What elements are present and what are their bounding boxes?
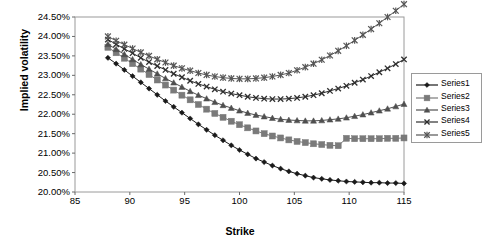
data-marker xyxy=(237,122,243,128)
data-marker xyxy=(212,87,217,92)
square-marker xyxy=(352,136,358,142)
data-marker xyxy=(393,180,398,185)
data-marker xyxy=(253,156,258,161)
triangle-marker xyxy=(154,71,160,76)
diamond-marker xyxy=(344,179,349,184)
diamond-marker xyxy=(401,181,406,186)
data-marker xyxy=(401,181,406,186)
triangle-marker xyxy=(171,80,177,85)
diamond-marker xyxy=(385,180,390,185)
diamond-marker xyxy=(336,178,341,183)
square-marker xyxy=(376,136,382,142)
square-marker xyxy=(195,102,201,108)
data-marker xyxy=(253,128,259,134)
data-marker xyxy=(360,32,366,39)
data-marker xyxy=(162,82,168,88)
data-marker xyxy=(336,86,341,91)
square-marker xyxy=(162,82,168,88)
data-marker xyxy=(294,67,300,74)
data-marker xyxy=(369,180,374,185)
data-marker xyxy=(319,56,325,63)
series-line xyxy=(108,4,404,79)
data-marker xyxy=(376,20,382,27)
legend-key-icon xyxy=(415,77,439,89)
diamond-marker xyxy=(393,180,398,185)
series-2 xyxy=(105,44,407,148)
legend-item-series2[interactable]: Series2 xyxy=(415,89,478,101)
diamond-marker xyxy=(245,152,250,157)
data-marker xyxy=(286,137,292,143)
diamond-marker xyxy=(294,171,299,176)
triangle-marker xyxy=(162,75,168,80)
data-marker xyxy=(154,71,160,76)
data-marker xyxy=(262,159,267,164)
data-marker xyxy=(171,62,177,69)
data-marker xyxy=(343,135,349,141)
legend-marker-asterisk-icon xyxy=(415,129,439,141)
data-marker xyxy=(302,64,308,71)
data-marker xyxy=(220,114,226,120)
diamond-marker xyxy=(204,127,209,132)
legend-item-series1[interactable]: Series1 xyxy=(415,77,478,89)
data-marker xyxy=(245,125,251,131)
data-marker xyxy=(130,56,136,61)
data-marker xyxy=(187,97,193,103)
data-marker xyxy=(179,84,185,89)
data-marker xyxy=(204,96,210,101)
data-marker xyxy=(163,59,169,66)
diamond-marker xyxy=(262,159,267,164)
data-marker xyxy=(278,135,284,141)
data-marker xyxy=(105,33,111,40)
legend-item-series3[interactable]: Series3 xyxy=(415,102,478,114)
data-marker xyxy=(385,180,390,185)
data-marker xyxy=(336,178,341,183)
square-marker xyxy=(335,143,341,149)
data-marker xyxy=(377,70,382,75)
data-marker xyxy=(155,63,160,68)
data-marker xyxy=(220,138,225,143)
data-marker xyxy=(138,61,144,66)
data-marker xyxy=(319,176,324,181)
square-marker xyxy=(424,95,430,101)
data-marker xyxy=(138,55,143,60)
data-marker xyxy=(311,141,317,147)
square-marker xyxy=(146,72,152,78)
square-marker xyxy=(204,106,210,112)
data-marker xyxy=(360,77,365,82)
data-marker xyxy=(196,81,201,86)
triangle-marker xyxy=(401,101,407,106)
series-3 xyxy=(105,41,407,123)
data-marker xyxy=(352,80,357,85)
square-marker xyxy=(393,135,399,141)
data-marker xyxy=(195,92,201,97)
data-marker xyxy=(245,152,250,157)
square-marker xyxy=(228,118,234,124)
square-marker xyxy=(360,136,366,142)
legend-item-series5[interactable]: Series5 xyxy=(415,127,478,139)
diamond-marker xyxy=(377,180,382,185)
data-marker xyxy=(368,73,373,78)
data-marker xyxy=(401,101,407,106)
data-marker xyxy=(113,37,119,44)
square-marker xyxy=(154,77,160,83)
data-marker xyxy=(302,140,308,146)
diamond-marker xyxy=(369,180,374,185)
square-marker xyxy=(245,125,251,131)
data-marker xyxy=(204,84,209,89)
legend-item-series4[interactable]: Series4 xyxy=(415,114,478,126)
legend-label: Series2 xyxy=(439,91,470,101)
data-marker xyxy=(171,80,177,85)
data-marker xyxy=(319,142,325,148)
square-marker xyxy=(171,87,177,93)
data-marker xyxy=(294,171,299,176)
chart-container: Implied volatility Strike 20.00%20.50%21… xyxy=(0,0,491,250)
square-marker xyxy=(302,140,308,146)
data-marker xyxy=(401,135,407,141)
square-marker xyxy=(368,136,374,142)
data-marker xyxy=(261,131,267,137)
data-marker xyxy=(162,75,168,80)
diamond-marker xyxy=(327,177,332,182)
diamond-marker xyxy=(270,163,275,168)
square-marker xyxy=(343,135,349,141)
diamond-marker xyxy=(237,147,242,152)
